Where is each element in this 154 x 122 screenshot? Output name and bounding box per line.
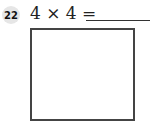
question-number: 22 [4,10,18,21]
answer-blank-line[interactable] [86,20,150,21]
question-number-badge: 22 [2,6,20,24]
drawing-work-box[interactable] [30,28,135,121]
